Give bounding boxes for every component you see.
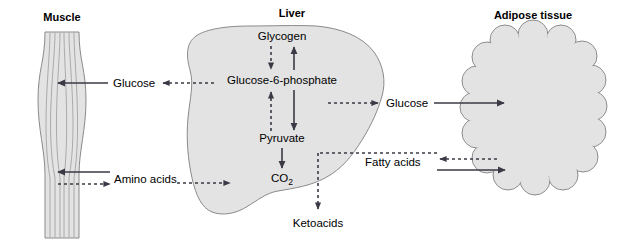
co2-base-label: CO	[271, 172, 288, 184]
liver-shape	[187, 26, 384, 214]
flow-label-fatty-acids: Fatty acids	[365, 156, 421, 168]
organ-title-muscle: Muscle	[43, 11, 80, 23]
flow-label-glucose-adipose: Glucose	[386, 97, 428, 109]
liver-node-glycogen: Glycogen	[258, 30, 307, 42]
muscle-shape	[38, 32, 86, 238]
organ-muscle: Muscle	[38, 11, 86, 238]
organ-liver: Liver Glycogen Glucose-6-phosphate Pyruv…	[187, 7, 384, 229]
interorgan-metabolism-diagram: Muscle Liver Glycogen Glucose-6-phosphat…	[0, 0, 627, 246]
flow-label-glucose-muscle: Glucose	[113, 77, 155, 89]
organ-title-liver: Liver	[279, 7, 306, 19]
liver-node-pyruvate: Pyruvate	[259, 132, 304, 144]
co2-subscript: 2	[288, 177, 293, 187]
organ-adipose: Adipose tissue	[460, 9, 607, 195]
adipose-shape	[460, 20, 607, 195]
diagram-canvas: Muscle Liver Glycogen Glucose-6-phosphat…	[0, 0, 627, 246]
liver-node-ketoacids: Ketoacids	[293, 217, 344, 229]
liver-node-g6p: Glucose-6-phosphate	[227, 74, 337, 86]
organ-title-adipose: Adipose tissue	[494, 9, 572, 21]
flow-label-amino-acids: Amino acids	[114, 173, 177, 185]
